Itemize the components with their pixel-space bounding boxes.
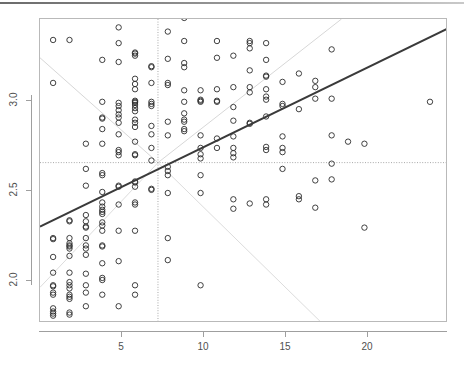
data-point [100, 126, 105, 131]
data-point [83, 290, 88, 295]
data-point [313, 78, 318, 83]
data-point [132, 81, 137, 86]
data-point [165, 133, 170, 138]
data-point [247, 201, 252, 206]
data-point [165, 56, 170, 61]
data-point [116, 120, 121, 125]
data-point [198, 133, 203, 138]
data-point [214, 55, 219, 60]
data-point [83, 166, 88, 171]
data-point [50, 37, 55, 42]
data-point [165, 29, 170, 34]
regression-line [40, 28, 447, 226]
data-point [149, 145, 154, 150]
data-point [231, 206, 236, 211]
data-point [231, 118, 236, 123]
data-point [313, 84, 318, 89]
data-point [362, 141, 367, 146]
data-point [329, 161, 334, 166]
data-point [116, 132, 121, 137]
reference-line-descending-upper [40, 58, 158, 163]
data-point [247, 68, 252, 73]
data-point [116, 115, 121, 120]
data-point [67, 270, 72, 275]
data-point [50, 80, 55, 85]
data-point [149, 123, 154, 128]
x-tick-20 [367, 331, 368, 337]
x-tick-5 [121, 331, 122, 337]
data-point [165, 190, 170, 195]
data-point [116, 40, 121, 45]
data-point [116, 258, 121, 263]
data-point [100, 99, 105, 104]
data-point [83, 252, 88, 257]
data-point [296, 71, 301, 76]
data-point [116, 228, 121, 233]
data-point [165, 257, 170, 262]
plot-frame [39, 18, 447, 322]
data-point [83, 141, 88, 146]
data-point [329, 177, 334, 182]
y-tick-label-2.0: 2.0 [8, 266, 19, 294]
data-point [231, 197, 236, 202]
x-tick-10 [203, 331, 204, 337]
data-point [149, 132, 154, 137]
data-point [214, 38, 219, 43]
data-point [231, 104, 236, 109]
data-point [280, 79, 285, 84]
y-tick-label-3.0: 3.0 [8, 86, 19, 114]
data-point [362, 225, 367, 230]
x-tick-label-20: 20 [353, 341, 381, 352]
data-point [280, 166, 285, 171]
data-point [181, 111, 186, 116]
data-point [263, 197, 268, 202]
data-point [116, 25, 121, 30]
data-point [83, 235, 88, 240]
y-tick-label-2.5: 2.5 [8, 176, 19, 204]
regression-line-group [40, 28, 447, 226]
data-point [100, 292, 105, 297]
data-point [263, 202, 268, 207]
data-point [231, 84, 236, 89]
data-point [231, 145, 236, 150]
data-point [83, 304, 88, 309]
data-point [132, 87, 137, 92]
data-point [165, 119, 170, 124]
data-point [198, 172, 203, 177]
data-point [313, 96, 318, 101]
data-point [83, 183, 88, 188]
data-point [149, 158, 154, 163]
data-point [132, 228, 137, 233]
top-divider-rule [0, 2, 464, 4]
data-point [50, 254, 55, 259]
data-point [214, 145, 219, 150]
x-tick-label-5: 5 [107, 341, 135, 352]
x-tick-15 [285, 331, 286, 337]
data-point [132, 292, 137, 297]
data-point [263, 87, 268, 92]
data-point [181, 38, 186, 43]
data-point [100, 141, 105, 146]
data-point [83, 219, 88, 224]
y-tick-3.0 [26, 100, 32, 101]
data-point [100, 57, 105, 62]
data-point [50, 270, 55, 275]
x-tick-label-10: 10 [189, 341, 217, 352]
data-point [181, 88, 186, 93]
reference-line-ascending-lower [40, 163, 158, 288]
reference-line-descending-lower [158, 163, 322, 322]
data-point [345, 139, 350, 144]
data-point [427, 99, 432, 104]
data-point [313, 178, 318, 183]
data-point [247, 46, 252, 51]
data-point [296, 106, 301, 111]
data-point [149, 80, 154, 85]
data-point [67, 235, 72, 240]
data-point [329, 133, 334, 138]
data-point [83, 212, 88, 217]
data-point [100, 189, 105, 194]
data-point [198, 190, 203, 195]
data-point [116, 59, 121, 64]
data-point [214, 87, 219, 92]
data-point [313, 205, 318, 210]
